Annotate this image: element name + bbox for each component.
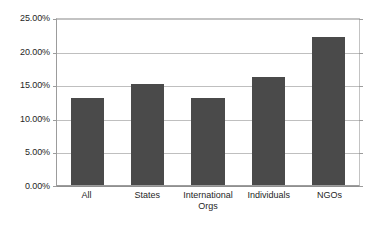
y-axis-tick-label: 15.00% bbox=[0, 81, 50, 90]
x-axis: AllStatesInternational OrgsIndividualsNG… bbox=[56, 190, 360, 230]
y-axis-tick-mark bbox=[359, 120, 363, 121]
bar[interactable] bbox=[131, 84, 164, 185]
y-axis-tick-mark bbox=[359, 53, 363, 54]
y-axis-tick-mark bbox=[359, 186, 363, 187]
bars-layer bbox=[57, 19, 359, 185]
y-axis-tick-label: 10.00% bbox=[0, 114, 50, 123]
x-axis-category-label: All bbox=[56, 190, 117, 230]
bar-slot bbox=[117, 19, 177, 185]
y-axis-tick-mark bbox=[359, 86, 363, 87]
y-axis-tick-label: 25.00% bbox=[0, 14, 50, 23]
x-axis-category-label: International Orgs bbox=[178, 190, 239, 230]
bar[interactable] bbox=[71, 98, 104, 185]
bar[interactable] bbox=[191, 98, 224, 185]
x-axis-category-label: NGOs bbox=[299, 190, 360, 230]
bar-slot bbox=[57, 19, 117, 185]
bar-chart: 0.00%5.00%10.00%15.00%20.00%25.00% AllSt… bbox=[0, 0, 378, 234]
y-axis-tick-label: 0.00% bbox=[0, 182, 50, 191]
plot-area bbox=[56, 18, 360, 186]
bar[interactable] bbox=[312, 37, 345, 185]
bar[interactable] bbox=[252, 77, 285, 185]
y-axis-tick-mark bbox=[53, 186, 57, 187]
x-axis-category-label: States bbox=[117, 190, 178, 230]
y-axis: 0.00%5.00%10.00%15.00%20.00%25.00% bbox=[0, 18, 50, 186]
bar-slot bbox=[299, 19, 359, 185]
gridline bbox=[57, 186, 359, 187]
bar-slot bbox=[178, 19, 238, 185]
y-axis-tick-label: 20.00% bbox=[0, 47, 50, 56]
bar-slot bbox=[238, 19, 298, 185]
y-axis-tick-mark bbox=[359, 153, 363, 154]
x-axis-category-label: Individuals bbox=[238, 190, 299, 230]
y-axis-tick-label: 5.00% bbox=[0, 148, 50, 157]
y-axis-tick-mark bbox=[359, 19, 363, 20]
